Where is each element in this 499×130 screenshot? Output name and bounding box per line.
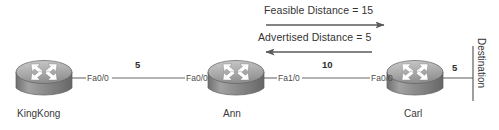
interface-label-ann-fa0-0: Fa0/0 (186, 73, 208, 83)
network-diagram: Feasible Distance = 15 Advertised Distan… (0, 0, 499, 130)
router-name-carl: Carl (404, 108, 422, 119)
interface-label-kingkong-fa0-0: Fa0/0 (87, 73, 109, 83)
destination-label: Destination (476, 38, 487, 88)
router-name-kingkong: KingKong (17, 108, 60, 119)
advertised-distance-label: Advertised Distance = 5 (258, 31, 371, 43)
feasible-distance-label: Feasible Distance = 15 (264, 4, 373, 16)
link-cost-kingkong-ann: 5 (135, 59, 140, 70)
link-cost-ann-carl: 10 (322, 59, 333, 70)
interface-label-carl-fa0-0: Fa0/0 (371, 73, 393, 83)
link-cost-carl-destination: 5 (452, 62, 457, 73)
diagram-text-layer: Feasible Distance = 15 Advertised Distan… (0, 0, 499, 130)
interface-label-ann-fa1-0: Fa1/0 (278, 73, 300, 83)
router-name-ann: Ann (223, 108, 241, 119)
